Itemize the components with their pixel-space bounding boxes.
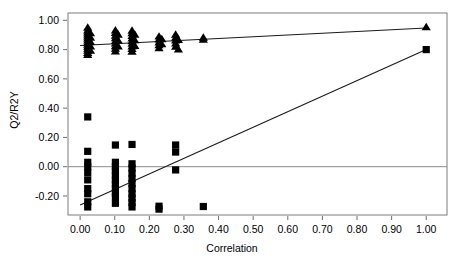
x-tick-label: 0.70 <box>312 223 333 235</box>
x-tick-label: 0.50 <box>243 223 264 235</box>
data-point-square <box>172 141 179 148</box>
x-tick-label: 0.90 <box>381 223 402 235</box>
data-point-square <box>84 176 91 183</box>
data-point-square <box>155 206 162 213</box>
scatter-plot: 0.000.100.200.300.400.500.600.700.800.90… <box>0 0 464 265</box>
data-point-square <box>423 46 430 53</box>
data-point-square <box>112 141 119 148</box>
data-markers <box>83 23 431 213</box>
data-point-square <box>128 203 135 210</box>
x-tick-label: 0.40 <box>208 223 229 235</box>
series-r2y <box>83 23 431 58</box>
x-axis-title: Correlation <box>206 242 258 254</box>
data-point-square <box>112 200 119 207</box>
data-point-square <box>84 190 91 197</box>
x-tick-label: 1.00 <box>416 223 437 235</box>
data-point-square <box>84 169 91 176</box>
chart-screenshot: 0.000.100.200.300.400.500.600.700.800.90… <box>0 0 464 265</box>
data-point-square <box>112 193 119 200</box>
data-point-square <box>128 141 135 148</box>
x-tick-label: 0.80 <box>347 223 368 235</box>
data-point-square <box>84 148 91 155</box>
x-tick-label: 0.30 <box>174 223 195 235</box>
data-point-square <box>84 203 91 210</box>
data-point-square <box>200 203 207 210</box>
x-tick-label: 0.10 <box>105 223 126 235</box>
data-point-triangle <box>422 23 431 30</box>
y-tick-label: 1.00 <box>39 14 60 26</box>
x-tick-label: 0.20 <box>139 223 160 235</box>
y-tick-label: 0.20 <box>39 131 60 143</box>
x-tick-label: 0.00 <box>70 223 91 235</box>
axis-tick-labels: 0.000.100.200.300.400.500.600.700.800.90… <box>35 14 437 235</box>
y-axis-title: Q2/R2Y <box>8 91 20 128</box>
y-tick-label: 0.80 <box>39 43 60 55</box>
data-point-square <box>172 166 179 173</box>
x-tick-label: 0.60 <box>278 223 299 235</box>
data-point-square <box>172 148 179 155</box>
y-tick-label: -0.20 <box>35 190 59 202</box>
y-tick-label: 0.60 <box>39 73 60 85</box>
y-tick-label: 0.00 <box>39 160 60 172</box>
y-tick-label: 0.40 <box>39 102 60 114</box>
data-point-square <box>84 113 91 120</box>
